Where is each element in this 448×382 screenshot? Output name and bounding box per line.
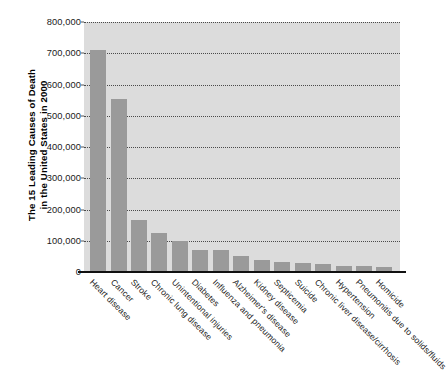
y-axis-tick-mark <box>81 22 84 23</box>
y-axis-tick-label: 800,000 <box>3 17 81 27</box>
gridline <box>84 22 400 23</box>
gridline <box>84 210 400 211</box>
gridline <box>84 53 400 54</box>
y-axis-tick-label: 400,000 <box>3 142 81 152</box>
bar <box>111 99 127 272</box>
y-axis-tick-label: 700,000 <box>3 48 81 58</box>
plot-area <box>84 22 400 272</box>
y-axis-tick-mark <box>81 209 84 210</box>
y-axis-tick-mark <box>81 115 84 116</box>
bar <box>131 220 147 272</box>
bar <box>172 241 188 272</box>
gridline <box>84 85 400 86</box>
y-axis-tick-label: 600,000 <box>3 80 81 90</box>
gridline <box>84 178 400 179</box>
y-axis-tick-mark <box>81 84 84 85</box>
y-axis-tick-mark <box>81 240 84 241</box>
bar <box>213 250 229 272</box>
y-axis-tick-label: 300,000 <box>3 173 81 183</box>
bar <box>192 250 208 272</box>
bar <box>233 256 249 272</box>
y-axis-tick-label: 100,000 <box>3 236 81 246</box>
y-axis-tick-label: 200,000 <box>3 205 81 215</box>
gridline <box>84 147 400 148</box>
y-axis-tick-label: 0 <box>3 267 81 277</box>
y-axis-tick-label: 500,000 <box>3 111 81 121</box>
bar <box>90 50 106 272</box>
y-axis-tick-mark <box>81 53 84 54</box>
y-axis-tick-mark <box>81 147 84 148</box>
gridline <box>84 116 400 117</box>
y-axis-tick-labels: 0100,000200,000300,000400,000500,000600,… <box>0 0 81 382</box>
y-axis-tick-mark <box>81 178 84 179</box>
bar <box>151 233 167 272</box>
x-axis-line <box>78 271 406 273</box>
